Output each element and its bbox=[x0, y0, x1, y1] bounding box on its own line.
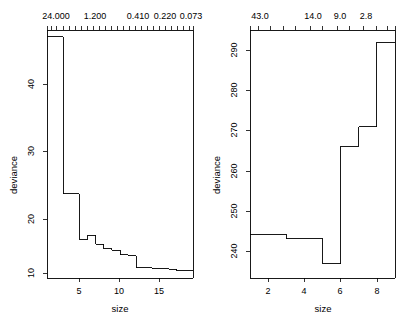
right-plot-svg: 43.0 14.0 9.0 2.8 290 280 270 260 250 24… bbox=[206, 0, 413, 324]
left-plot-y-ticks bbox=[43, 84, 47, 273]
left-plot-step-curve bbox=[47, 37, 193, 271]
left-plot-y-tick-label-20: 20 bbox=[26, 214, 36, 224]
right-plot-top-tick-label-3: 2.8 bbox=[360, 11, 373, 21]
right-plot-y-ticks bbox=[246, 50, 250, 251]
right-plot-x-tick-label-8: 8 bbox=[374, 286, 379, 296]
left-plot-svg: 24.000 1.200 0.410 0.220 0.073 40 30 20 … bbox=[0, 0, 206, 324]
left-plot-y-axis-title: deviance bbox=[8, 156, 19, 194]
left-plot-y-tick-label-10: 10 bbox=[26, 268, 36, 278]
left-plot-x-ticks bbox=[79, 278, 159, 282]
right-plot-top-ticks bbox=[250, 26, 395, 30]
right-plot-panel: 43.0 14.0 9.0 2.8 290 280 270 260 250 24… bbox=[206, 0, 413, 324]
right-plot-y-tick-label-270: 270 bbox=[229, 122, 239, 137]
right-plot-y-tick-label-260: 260 bbox=[229, 163, 239, 178]
left-plot-top-tick-label-3: 0.220 bbox=[154, 11, 177, 21]
right-plot-y-tick-label-240: 240 bbox=[229, 243, 239, 258]
deviance-size-figure: 24.000 1.200 0.410 0.220 0.073 40 30 20 … bbox=[0, 0, 413, 324]
left-plot-axes bbox=[47, 30, 193, 278]
right-plot-y-tick-label-290: 290 bbox=[229, 42, 239, 57]
right-plot-step-curve bbox=[250, 42, 395, 264]
left-plot-y-tick-label-40: 40 bbox=[26, 79, 36, 89]
left-plot-top-tick-label-1: 1.200 bbox=[84, 11, 107, 21]
right-plot-x-tick-label-6: 6 bbox=[337, 286, 342, 296]
left-plot-top-tick-label-2: 0.410 bbox=[127, 11, 150, 21]
right-plot-x-tick-label-2: 2 bbox=[265, 286, 270, 296]
left-plot-top-tick-label-0: 24.000 bbox=[42, 11, 70, 21]
right-plot-x-tick-label-4: 4 bbox=[301, 286, 306, 296]
right-plot-y-axis-title: deviance bbox=[211, 156, 222, 194]
right-plot-y-tick-label-280: 280 bbox=[229, 82, 239, 97]
right-plot-top-tick-label-1: 14.0 bbox=[304, 11, 322, 21]
right-plot-x-ticks bbox=[268, 278, 377, 282]
right-plot-top-tick-label-0: 43.0 bbox=[251, 11, 269, 21]
left-plot-top-ticks bbox=[47, 26, 193, 30]
right-plot-y-tick-label-250: 250 bbox=[229, 203, 239, 218]
left-plot-x-axis-title: size bbox=[112, 303, 129, 314]
right-plot-top-tick-label-2: 9.0 bbox=[334, 11, 347, 21]
left-plot-panel: 24.000 1.200 0.410 0.220 0.073 40 30 20 … bbox=[0, 0, 206, 324]
left-plot-x-tick-label-10: 10 bbox=[114, 286, 124, 296]
left-plot-x-tick-label-5: 5 bbox=[76, 286, 81, 296]
left-plot-x-tick-label-15: 15 bbox=[154, 286, 164, 296]
left-plot-top-tick-label-4: 0.073 bbox=[180, 11, 203, 21]
left-plot-y-tick-label-30: 30 bbox=[26, 146, 36, 156]
right-plot-x-axis-title: size bbox=[315, 303, 332, 314]
